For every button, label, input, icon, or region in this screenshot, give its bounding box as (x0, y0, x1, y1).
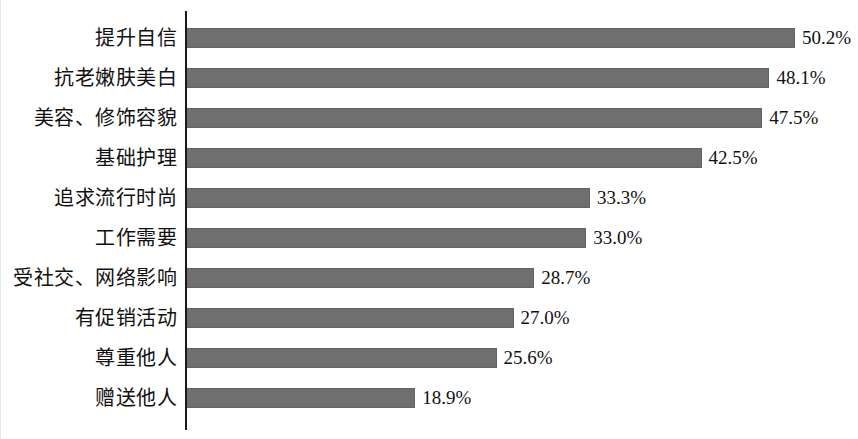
category-label: 追求流行时尚 (54, 178, 177, 218)
category-label: 提升自信 (95, 18, 177, 58)
category-label: 工作需要 (95, 218, 177, 258)
bar-fill (186, 388, 415, 408)
category-label: 基础护理 (95, 138, 177, 178)
bar-row: 工作需要33.0% (0, 218, 858, 258)
bar-value-label: 48.1% (776, 66, 825, 90)
category-label: 赠送他人 (95, 378, 177, 418)
category-label: 尊重他人 (95, 338, 177, 378)
bar (186, 108, 762, 128)
bar-value-label: 27.0% (521, 306, 570, 330)
bar-fill (186, 28, 795, 48)
bar-value-label: 28.7% (541, 266, 590, 290)
bar-row: 受社交、网络影响28.7% (0, 258, 858, 298)
bar-value-label: 50.2% (802, 26, 851, 50)
bar-row: 追求流行时尚33.3% (0, 178, 858, 218)
category-axis-line (185, 11, 187, 430)
bar-fill (186, 108, 762, 128)
bar-value-label: 25.6% (504, 346, 553, 370)
bar (186, 28, 795, 48)
bar-value-label: 18.9% (422, 386, 471, 410)
plot-area: 提升自信50.2%抗老嫩肤美白48.1%美容、修饰容貌47.5%基础护理42.5… (0, 0, 858, 439)
bar-row: 尊重他人25.6% (0, 338, 858, 378)
bar (186, 148, 702, 168)
category-label: 有促销活动 (75, 298, 178, 338)
bar-value-label: 42.5% (709, 146, 758, 170)
bar-row: 基础护理42.5% (0, 138, 858, 178)
bar (186, 228, 586, 248)
bar-fill (186, 148, 702, 168)
bar-fill (186, 228, 586, 248)
bar (186, 348, 497, 368)
bar-value-label: 33.0% (593, 226, 642, 250)
category-label: 受社交、网络影响 (13, 258, 177, 298)
bar-fill (186, 268, 534, 288)
bar-row: 美容、修饰容貌47.5% (0, 98, 858, 138)
bar-value-label: 47.5% (769, 106, 818, 130)
bar-fill (186, 308, 514, 328)
bar-row: 有促销活动27.0% (0, 298, 858, 338)
bar-chart: 提升自信50.2%抗老嫩肤美白48.1%美容、修饰容貌47.5%基础护理42.5… (0, 0, 858, 439)
bar-row: 提升自信50.2% (0, 18, 858, 58)
bar-fill (186, 348, 497, 368)
bar (186, 388, 415, 408)
bar-value-label: 33.3% (597, 186, 646, 210)
bar (186, 68, 769, 88)
bar-fill (186, 188, 590, 208)
bar-fill (186, 68, 769, 88)
bar (186, 268, 534, 288)
bar-row: 抗老嫩肤美白48.1% (0, 58, 858, 98)
category-label: 美容、修饰容貌 (34, 98, 178, 138)
category-label: 抗老嫩肤美白 (54, 58, 177, 98)
bar-row: 赠送他人18.9% (0, 378, 858, 418)
bar (186, 308, 514, 328)
bar (186, 188, 590, 208)
